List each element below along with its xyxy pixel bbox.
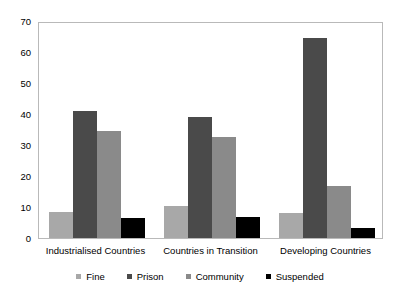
legend-item: Prison [127, 272, 164, 282]
y-axis-tick-label: 60 [20, 48, 31, 58]
legend-label: Community [196, 272, 244, 282]
y-axis-tick-label: 50 [20, 79, 31, 89]
y-axis: 010203040506070 [0, 22, 38, 239]
x-axis-category-labels: Industrialised CountriesCountries in Tra… [38, 245, 383, 261]
legend-swatch-icon [186, 274, 191, 279]
bar-suspended [351, 228, 375, 238]
plot-inner [39, 23, 382, 238]
legend-swatch-icon [127, 274, 132, 279]
legend-swatch-icon [266, 274, 271, 279]
bar-prison [303, 38, 327, 238]
legend-item: Fine [76, 272, 104, 282]
bar-group [164, 23, 260, 238]
bar-fine [279, 213, 303, 238]
bar-suspended [121, 218, 145, 238]
x-axis-label: Countries in Transition [163, 245, 258, 256]
y-axis-tick-label: 70 [20, 17, 31, 27]
y-axis-tick-label: 30 [20, 141, 31, 151]
bar-fine [164, 206, 188, 238]
bar-community [212, 137, 236, 238]
bar-prison [188, 117, 212, 238]
bar-group [279, 23, 375, 238]
y-axis-tick-label: 10 [20, 203, 31, 213]
x-axis-label: Developing Countries [280, 245, 371, 256]
plot-area [38, 22, 383, 239]
legend-swatch-icon [76, 274, 81, 279]
x-axis-label: Industrialised Countries [46, 245, 145, 256]
y-axis-tick-label: 40 [20, 110, 31, 120]
chart-legend: FinePrisonCommunitySuspended [0, 272, 400, 282]
legend-label: Fine [86, 272, 104, 282]
bar-fine [49, 212, 73, 238]
bar-community [327, 186, 351, 238]
y-axis-tick-label: 0 [26, 234, 31, 244]
legend-label: Prison [137, 272, 164, 282]
y-axis-tick-label: 20 [20, 172, 31, 182]
bar-chart: 010203040506070 Industrialised Countries… [0, 0, 400, 299]
bar-suspended [236, 217, 260, 238]
bar-community [97, 131, 121, 238]
legend-item: Suspended [266, 272, 324, 282]
bar-group [49, 23, 145, 238]
legend-item: Community [186, 272, 244, 282]
legend-label: Suspended [276, 272, 324, 282]
bar-prison [73, 111, 97, 238]
